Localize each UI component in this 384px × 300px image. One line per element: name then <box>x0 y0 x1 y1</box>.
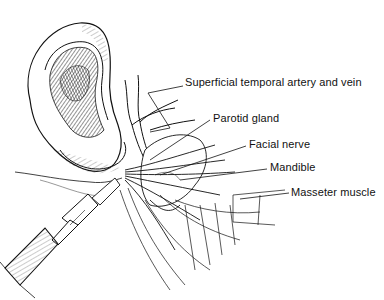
label-facial-nerve: Facial nerve <box>249 138 310 150</box>
label-masseter-muscle: Masseter muscle <box>291 186 376 198</box>
label-parotid-gland: Parotid gland <box>213 112 279 124</box>
ear <box>28 23 126 173</box>
label-superficial-temporal: Superficial temporal artery and vein <box>185 76 362 88</box>
illustration-drawing <box>0 0 384 300</box>
anatomical-illustration: Superficial temporal artery and vein Par… <box>0 0 384 300</box>
label-mandible: Mandible <box>270 161 315 173</box>
parotid-gland <box>141 135 206 211</box>
surgical-instrument <box>0 178 120 298</box>
